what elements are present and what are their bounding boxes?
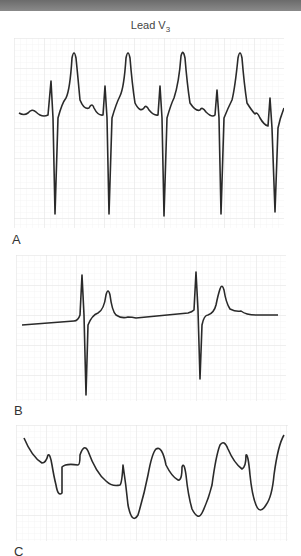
panel-label-b: B	[14, 403, 23, 418]
panel-label-c: C	[14, 544, 23, 556]
ecg-strip-b	[16, 255, 286, 401]
title-subscript: 3	[166, 25, 170, 34]
panel-label-a: A	[12, 232, 21, 247]
figure-title: Lead V3	[0, 19, 301, 34]
top-bar	[0, 0, 301, 11]
ecg-strip-c	[16, 425, 288, 541]
ecg-strip-a	[14, 38, 284, 228]
title-text: Lead V	[131, 19, 166, 31]
